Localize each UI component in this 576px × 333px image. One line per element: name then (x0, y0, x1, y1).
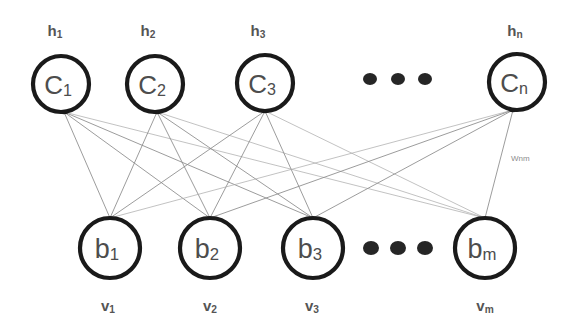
edge-c1-b1 (64, 112, 110, 218)
weight-label-group: Wnm (511, 154, 530, 163)
hidden-layer-nodes: C1C2C3Cn (33, 54, 545, 112)
visible-layer-nodes: b1b2b3bm (80, 218, 515, 278)
node-bm[interactable]: bm (455, 218, 515, 278)
rbm-diagram-canvas: C1C2C3Cn b1b2b3bm h1h2h3hnv1v2v3vm Wnm (0, 0, 576, 333)
node-c2[interactable]: C2 (127, 56, 183, 112)
edge-cn-bm (485, 110, 513, 218)
node-b2[interactable]: b2 (180, 218, 240, 278)
visible-layer-ellipsis-dot-1 (363, 241, 379, 255)
edge-c3-b2 (210, 111, 265, 218)
visible-unit-label-v3: v3 (305, 297, 319, 315)
edge-cn-b1 (110, 110, 513, 218)
hidden-unit-label-h3: h3 (251, 22, 266, 40)
visible-layer-ellipsis-dot-2 (390, 241, 406, 255)
edge-anchors-group (60, 106, 518, 114)
edge-cn-b3 (313, 110, 513, 218)
visible-layer-ellipsis-dot-3 (417, 241, 433, 255)
node-b3[interactable]: b3 (283, 218, 343, 278)
node-c1[interactable]: C1 (33, 56, 89, 112)
edge-c1-bm (64, 112, 485, 218)
visible-unit-label-v1: v1 (101, 297, 115, 315)
edges-group (64, 110, 513, 218)
node-c3[interactable]: C3 (237, 55, 293, 111)
weight-wnm: Wnm (511, 154, 530, 163)
node-b1[interactable]: b1 (80, 218, 140, 278)
hidden-layer-ellipsis-dot-1 (363, 73, 377, 85)
edge-c2-bm (157, 112, 485, 218)
hidden-layer-ellipsis-dot-2 (391, 73, 405, 85)
visible-unit-label-v2: v2 (203, 297, 217, 315)
hidden-unit-label-h2: h2 (141, 22, 156, 40)
node-cn[interactable]: Cn (489, 54, 545, 110)
bipartite-graph-svg: C1C2C3Cn b1b2b3bm h1h2h3hnv1v2v3vm Wnm (0, 0, 576, 333)
hidden-layer-ellipsis-dot-3 (418, 73, 432, 85)
visible-unit-label-vm: vm (476, 297, 493, 315)
edge-cn-b2 (210, 110, 513, 218)
hidden-unit-label-h1: h1 (48, 22, 63, 40)
hidden-unit-label-hn: hn (507, 22, 522, 40)
edge-c2-b2 (157, 112, 210, 218)
edge-c3-bm (265, 111, 485, 218)
